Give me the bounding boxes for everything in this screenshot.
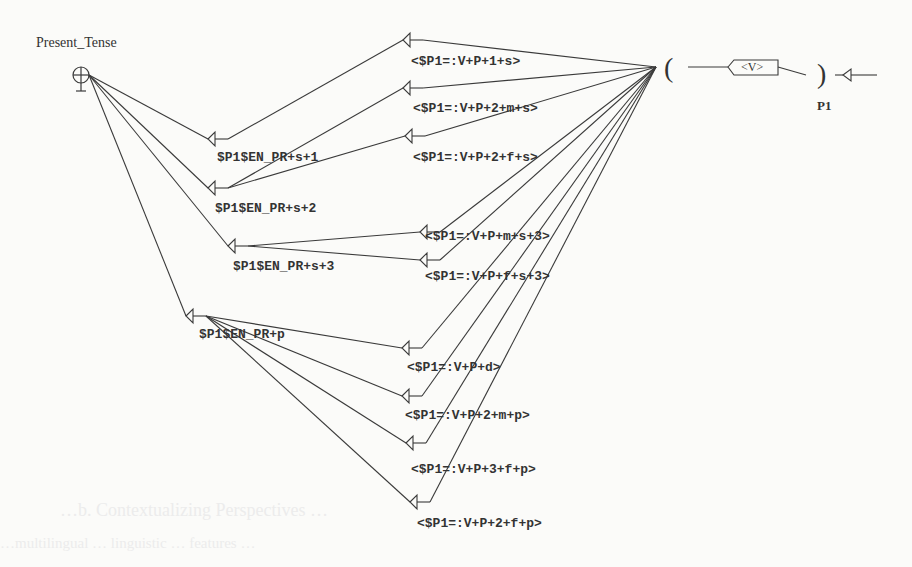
right-node-arrow-icon[interactable] (410, 495, 417, 509)
left-node-label[interactable]: $P1$EN_PR+s+2 (215, 201, 316, 216)
right-node-label[interactable]: <$P1=:V+P+d> (407, 360, 501, 375)
left-node-label[interactable]: $P1$EN_PR+s+1 (217, 150, 318, 165)
close-paren: ) (817, 58, 826, 90)
left-node-arrow-icon[interactable] (186, 309, 193, 323)
right-node-label[interactable]: <$P1=:V+P+m+s+3> (425, 229, 550, 244)
right-node-arrow-icon[interactable] (420, 253, 427, 267)
right-node-label[interactable]: <$P1=:V+P+3+f+p> (411, 462, 536, 477)
right-node-label[interactable]: <$P1=:V+P+2+m+p> (405, 408, 530, 423)
left-node-arrow-icon[interactable] (208, 132, 215, 146)
right-node-arrow-icon[interactable] (405, 129, 412, 143)
initial-state-icon[interactable] (73, 67, 89, 91)
left-node-label[interactable]: $P1$EN_PR+p (199, 327, 285, 342)
left-node-arrow-icon[interactable] (228, 239, 235, 253)
token-box-label: <V> (741, 60, 763, 75)
right-node-arrow-icon[interactable] (406, 436, 413, 450)
final-state-arrow-icon (843, 69, 851, 81)
right-node-label[interactable]: <$P1=:V+P+2+m+s> (413, 101, 538, 116)
right-node-label[interactable]: <$P1=:V+P+2+f+p> (417, 516, 542, 531)
left-node-label[interactable]: $P1$EN_PR+s+3 (233, 259, 334, 274)
graph-title: Present_Tense (36, 35, 117, 51)
right-node-arrow-icon[interactable] (403, 33, 410, 47)
right-node-label[interactable]: <$P1=:V+P+2+f+s> (413, 150, 538, 165)
right-node-arrow-icon[interactable] (403, 81, 410, 95)
open-paren: ( (664, 52, 673, 84)
graph-edges (89, 40, 656, 502)
right-node-arrow-icon[interactable] (402, 389, 409, 403)
variable-subgraph (688, 60, 877, 81)
right-node-arrow-icon[interactable] (402, 341, 409, 355)
right-node-label[interactable]: <$P1=:V+P+f+s+3> (425, 269, 550, 284)
right-node-label[interactable]: <$P1=:V+P+1+s> (411, 54, 520, 69)
variable-label: P1 (817, 98, 831, 114)
left-node-arrow-icon[interactable] (208, 181, 215, 195)
